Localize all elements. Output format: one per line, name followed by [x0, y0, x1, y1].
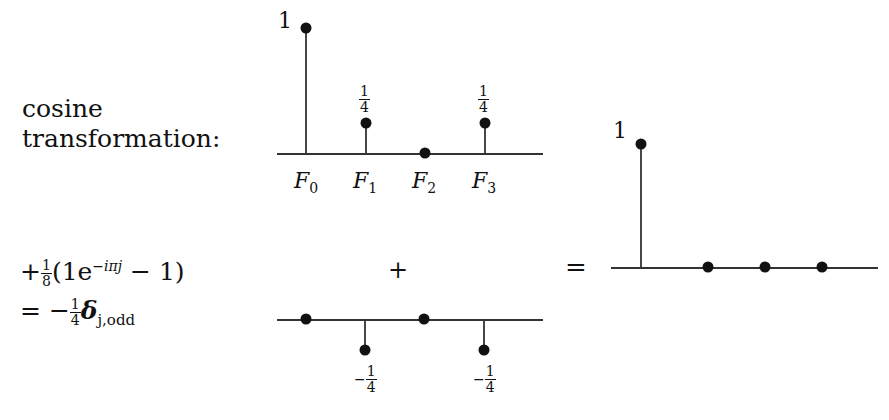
- tick-sub: 1: [368, 180, 377, 196]
- frac-num: 1: [485, 364, 496, 380]
- minus-sign: −: [473, 371, 485, 387]
- result-peak-label: 1: [613, 118, 627, 143]
- dot-f1-neg: [360, 345, 371, 356]
- tick-sub: 2: [427, 180, 436, 196]
- bottom-f3-value: −14: [473, 364, 496, 395]
- result-dot-f2: [760, 262, 771, 273]
- frac-num: 1: [359, 84, 370, 100]
- tick-f3: F3: [472, 168, 496, 196]
- frac-den: 4: [485, 380, 496, 395]
- bottom-stem-plot: [277, 314, 543, 356]
- tick-f0: F0: [294, 168, 318, 196]
- tick-sub: 3: [487, 180, 496, 196]
- frac-num: 1: [478, 84, 489, 100]
- tick-base: F: [353, 168, 368, 193]
- tick-base: F: [412, 168, 427, 193]
- plus-operator: +: [388, 256, 408, 284]
- top-f3-value: 14: [478, 84, 489, 115]
- result-dot-f1: [703, 262, 714, 273]
- dot-f0: [301, 23, 312, 34]
- dot-f3-neg: [479, 345, 490, 356]
- top-f1-value: 14: [359, 84, 370, 115]
- dot-f0-zero: [301, 314, 312, 325]
- top-stem-plot: [277, 23, 543, 159]
- minus-sign: −: [354, 371, 366, 387]
- dot-f2: [420, 148, 431, 159]
- stem-plots: [0, 0, 889, 420]
- equals-operator: =: [565, 252, 587, 282]
- frac-den: 4: [366, 380, 377, 395]
- top-peak-label: 1: [278, 8, 292, 33]
- dot-f3: [480, 118, 491, 129]
- result-dot-f0: [636, 139, 647, 150]
- result-dot-f3: [817, 262, 828, 273]
- tick-f1: F1: [353, 168, 377, 196]
- bottom-f1-value: −14: [354, 364, 377, 395]
- dot-f2-zero: [419, 314, 430, 325]
- tick-base: F: [294, 168, 309, 193]
- frac-den: 4: [478, 100, 489, 115]
- tick-base: F: [472, 168, 487, 193]
- frac-den: 4: [359, 100, 370, 115]
- result-stem-plot: [611, 139, 878, 273]
- tick-f2: F2: [412, 168, 436, 196]
- tick-sub: 0: [309, 180, 318, 196]
- dot-f1: [361, 118, 372, 129]
- frac-num: 1: [366, 364, 377, 380]
